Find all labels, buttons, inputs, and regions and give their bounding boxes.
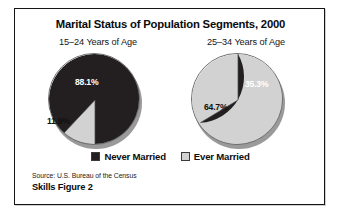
slice-label-never-married-15-24: 88.1% [75,77,98,87]
chart-title: Marital Status of Population Segments, 2… [15,18,326,30]
legend-label-never-married: Never Married [104,151,165,162]
panel-subtitle-15-24: 15–24 Years of Age [23,37,173,47]
figure-caption: Skills Figure 2 [32,182,93,192]
slice-label-ever-married-15-24: 11.9% [47,116,70,126]
slice-label-ever-married-25-34: 64.7% [204,102,227,112]
pie-svg-15-24 [49,54,140,145]
slice-label-never-married-25-34: 35.3% [245,79,268,89]
panel-subtitle-25-34: 25–34 Years of Age [171,37,321,47]
legend-swatch-ever-married-icon [181,152,190,161]
legend-item-ever-married: Ever Married [181,151,250,162]
pie-svg-25-34 [192,54,283,145]
chart-legend: Never Married Ever Married [15,151,326,162]
legend-swatch-never-married-icon [91,152,100,161]
legend-item-never-married: Never Married [91,151,165,162]
legend-label-ever-married: Ever Married [194,151,250,162]
source-line: Source: U.S. Bureau of the Census [32,172,137,179]
pie-disc-25-34 [191,53,283,145]
pie-disc-15-24 [48,53,140,145]
figure-frame: Marital Status of Population Segments, 2… [14,8,325,205]
